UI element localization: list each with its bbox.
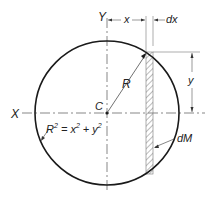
centroid-label: C (95, 100, 103, 112)
dx-arrow (154, 19, 158, 22)
y-arrow-top (191, 53, 194, 58)
equation-label: R2 = x2 + y2 (46, 122, 102, 135)
x-arrow-left (108, 19, 112, 22)
equation-arrow (41, 136, 45, 141)
y-axis-label: Y (98, 10, 107, 24)
dx-dim-label: dx (166, 13, 178, 25)
x-dim-label: x (123, 13, 130, 25)
radius-arrowhead (141, 53, 146, 59)
radius-label: R (122, 77, 131, 91)
y-arrow-bottom (191, 107, 194, 112)
dM-arrow (154, 145, 159, 149)
x-arrow-right (141, 19, 145, 22)
y-dim-label: y (187, 74, 195, 86)
element-label: dM (177, 132, 193, 144)
circle-diagram: Y x dx y R C X dM R2 = x2 + y2 (0, 0, 212, 197)
differential-strip (146, 52, 153, 174)
x-axis-label: X (10, 107, 20, 121)
